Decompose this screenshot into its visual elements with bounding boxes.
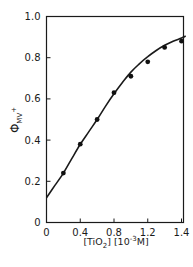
- data-point: [128, 74, 133, 79]
- data-point: [78, 142, 83, 147]
- data-point: [95, 117, 100, 122]
- x-axis-ticks: 00.40.81.21.4: [43, 219, 189, 238]
- data-point: [179, 39, 184, 44]
- fit-curve: [47, 36, 186, 198]
- y-tick-label: 0: [34, 217, 40, 228]
- y-tick-label: 1.0: [25, 11, 41, 22]
- y-tick-label: 0.6: [25, 93, 41, 104]
- chart: 00.20.40.60.81.0 00.40.81.21.4 [TiO2] [1…: [0, 0, 193, 267]
- data-points: [61, 39, 184, 176]
- x-axis-title: [TiO2] [10-3M]: [83, 235, 148, 250]
- y-axis-title: ΦMV+: [8, 107, 24, 133]
- data-point: [61, 171, 66, 176]
- y-tick-label: 0.4: [25, 135, 41, 146]
- y-tick-label: 0.8: [25, 52, 41, 63]
- data-point: [162, 45, 167, 50]
- data-point: [145, 59, 150, 64]
- data-point: [112, 90, 117, 95]
- x-tick-label: 0: [43, 227, 49, 238]
- x-tick-label: 1.4: [174, 227, 190, 238]
- y-tick-label: 0.2: [25, 176, 41, 187]
